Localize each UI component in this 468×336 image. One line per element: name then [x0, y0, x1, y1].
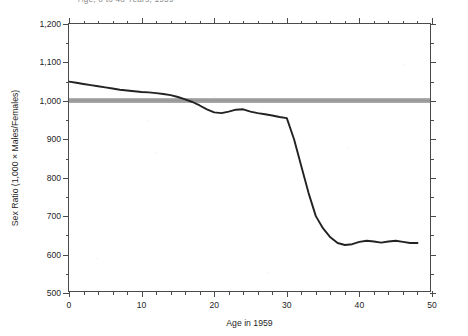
x-axis-tick-top	[417, 21, 418, 25]
x-axis-tick-top	[84, 21, 85, 25]
x-axis-tick	[127, 291, 128, 295]
x-axis-tick	[156, 291, 157, 295]
y-axis-tick-label: 1,000	[39, 96, 61, 106]
x-axis-tick-top	[142, 18, 143, 24]
y-axis-tick-right	[430, 82, 434, 83]
x-axis-tick	[258, 291, 259, 295]
chart-title: Age, 0 to 48 Years, 1959	[78, 0, 398, 4]
x-axis-tick-top	[388, 21, 389, 25]
y-axis-tick-label: 500	[47, 288, 61, 298]
y-axis-tick	[66, 82, 70, 83]
y-axis-tick-label: 600	[47, 250, 61, 260]
y-axis-tick	[66, 159, 70, 160]
x-axis-tick-top	[229, 21, 230, 25]
x-axis-tick-top	[316, 21, 317, 25]
x-axis-tick-top	[345, 21, 346, 25]
x-axis-tick-top	[330, 21, 331, 25]
y-axis-tick-right	[430, 216, 436, 217]
y-axis-tick-right	[430, 120, 434, 121]
y-axis-tick	[63, 178, 69, 179]
x-axis-title: Age in 1959	[68, 318, 431, 328]
x-axis-tick	[243, 291, 244, 295]
y-axis-tick-right	[430, 139, 436, 140]
y-axis-tick	[63, 101, 69, 102]
y-axis-tick-right	[430, 255, 436, 256]
x-axis-tick-top	[403, 21, 404, 25]
x-axis-tick	[345, 291, 346, 295]
x-axis-tick-label: 30	[282, 300, 292, 310]
x-axis-tick-label: 10	[137, 300, 147, 310]
y-axis-tick-label: 1,100	[39, 57, 61, 67]
x-axis-tick-top	[301, 21, 302, 25]
x-axis-tick	[359, 291, 360, 297]
x-axis-tick-top	[127, 21, 128, 25]
y-axis-tick-right	[430, 24, 436, 25]
y-axis-tick-right	[430, 178, 436, 179]
y-axis-tick-label: 900	[47, 134, 61, 144]
y-axis-tick-right	[430, 159, 434, 160]
x-axis-tick	[142, 291, 143, 297]
y-axis-tick-label: 800	[47, 173, 61, 183]
x-axis-tick-top	[98, 21, 99, 25]
y-axis-tick-right	[430, 101, 436, 102]
x-axis-tick-top	[113, 21, 114, 25]
y-axis-tick	[66, 235, 70, 236]
x-axis-tick	[432, 291, 433, 297]
x-axis-tick	[171, 291, 172, 295]
x-axis-tick	[287, 291, 288, 297]
x-axis-tick	[69, 291, 70, 297]
x-axis-tick	[200, 291, 201, 295]
x-axis-tick-top	[185, 21, 186, 25]
x-axis-tick-top	[214, 18, 215, 24]
x-axis-tick-top	[359, 18, 360, 24]
x-axis-tick-top	[287, 18, 288, 24]
x-axis-tick-label: 40	[355, 300, 365, 310]
x-axis-tick-label: 0	[67, 300, 72, 310]
y-axis-tick-right	[430, 235, 434, 236]
x-axis-tick-top	[243, 21, 244, 25]
chart-figure: Age, 0 to 48 Years, 1959 Sex Ratio (1,00…	[0, 0, 468, 336]
x-axis-tick	[185, 291, 186, 295]
y-axis-tick	[63, 216, 69, 217]
x-axis-tick	[113, 291, 114, 295]
x-axis-tick	[272, 291, 273, 295]
y-axis-tick-right	[430, 62, 436, 63]
x-axis-tick	[388, 291, 389, 295]
y-axis-title-text: Sex Ratio (1,000 × Males/Females)	[10, 89, 20, 225]
y-axis-tick-label: 700	[47, 211, 61, 221]
y-axis-tick-right	[430, 274, 434, 275]
x-axis-tick	[98, 291, 99, 295]
y-axis-tick-right	[430, 293, 436, 294]
x-axis-tick-top	[432, 18, 433, 24]
x-axis-tick	[417, 291, 418, 295]
y-axis-tick	[66, 43, 70, 44]
x-axis-tick	[301, 291, 302, 295]
y-axis-tick	[66, 274, 70, 275]
x-axis-tick-top	[156, 21, 157, 25]
x-axis-tick	[214, 291, 215, 297]
x-axis-tick	[330, 291, 331, 295]
y-axis-title: Sex Ratio (1,000 × Males/Females)	[8, 23, 22, 292]
x-axis-tick-top	[374, 21, 375, 25]
y-axis-tick-right	[430, 197, 434, 198]
y-axis-tick	[66, 120, 70, 121]
x-axis-tick-top	[69, 18, 70, 24]
y-axis-tick	[63, 24, 69, 25]
x-axis-tick-label: 20	[209, 300, 219, 310]
x-axis-tick-top	[171, 21, 172, 25]
y-axis-tick	[63, 139, 69, 140]
y-axis-tick	[66, 197, 70, 198]
x-axis-tick	[229, 291, 230, 295]
x-axis-tick	[84, 291, 85, 295]
x-axis-tick-top	[200, 21, 201, 25]
series-line-sex-ratio	[69, 24, 432, 293]
x-axis-tick	[403, 291, 404, 295]
x-axis-tick-label: 50	[427, 300, 437, 310]
x-axis-tick	[316, 291, 317, 295]
y-axis-tick-label: 1,200	[39, 19, 61, 29]
plot-area: 5006007008009001,0001,1001,2000102030405…	[68, 23, 431, 292]
y-axis-tick-right	[430, 43, 434, 44]
y-axis-tick	[63, 255, 69, 256]
y-axis-tick	[63, 62, 69, 63]
x-axis-tick-top	[258, 21, 259, 25]
